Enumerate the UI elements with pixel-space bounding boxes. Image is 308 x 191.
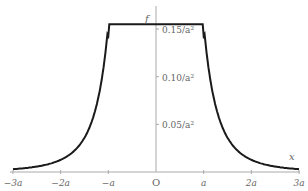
x-tick-label: 3a <box>293 178 304 188</box>
x-tick-label: −a <box>102 178 115 188</box>
y-tick-label: 0.05/a² <box>162 120 194 130</box>
x-axis-label: x <box>289 151 295 162</box>
plot-area: −3a−2a−aa2a3a 0.05/a²0.10/a²0.15/a² f x … <box>0 0 308 191</box>
x-tick-label: −3a <box>4 178 23 188</box>
origin-label: O <box>152 177 160 188</box>
y-tick-label: 0.15/a² <box>162 25 194 35</box>
x-tick-label: −2a <box>51 178 70 188</box>
y-ticks: 0.05/a²0.10/a²0.15/a² <box>156 25 194 130</box>
y-axis-label: f <box>144 13 151 24</box>
chart: −3a−2a−aa2a3a 0.05/a²0.10/a²0.15/a² f x … <box>0 0 308 191</box>
x-tick-label: a <box>201 178 206 188</box>
x-tick-label: 2a <box>245 178 257 188</box>
y-tick-label: 0.10/a² <box>162 73 194 83</box>
